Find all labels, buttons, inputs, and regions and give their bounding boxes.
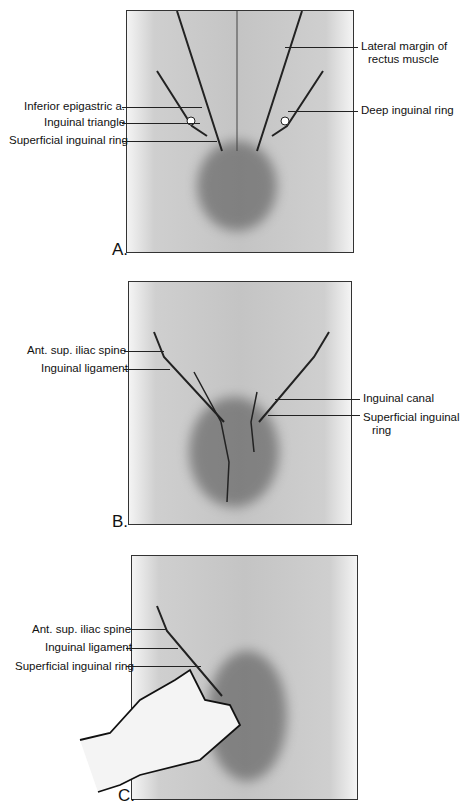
leader-inguinal-triangle: [122, 123, 200, 124]
panel-c-frame: [131, 555, 358, 800]
label-lateral-margin-rectus-line2: rectus muscle: [368, 53, 439, 66]
label-ant-sup-iliac-spine-c: Ant. sup. iliac spine: [32, 623, 131, 636]
panel-c-letter: C.: [118, 786, 135, 806]
leader-inguinal-canal: [275, 399, 360, 400]
label-inguinal-canal: Inguinal canal: [363, 392, 434, 405]
label-deep-inguinal-ring: Deep inguinal ring: [361, 104, 454, 117]
panel-b-letter: B.: [112, 512, 128, 532]
leader-inguinal-ligament-b: [124, 369, 170, 370]
panel-b-frame: [128, 281, 352, 525]
label-inferior-epigastric-artery: Inferior epigastric a.: [24, 100, 125, 113]
leader-ant-sup-iliac-spine-b: [124, 351, 164, 352]
leader-deep-inguinal-ring: [288, 111, 358, 112]
label-inguinal-ligament-c: Inguinal ligament: [45, 641, 132, 654]
label-ant-sup-iliac-spine-b: Ant. sup. iliac spine: [27, 344, 126, 357]
label-lateral-margin-rectus: Lateral margin of: [361, 40, 447, 53]
leader-lateral-margin-rectus: [285, 47, 358, 48]
leader-superficial-inguinal-ring-a: [122, 141, 217, 142]
label-inguinal-triangle: Inguinal triangle: [44, 116, 125, 129]
leader-inguinal-ligament-c: [126, 648, 178, 649]
panel-c-schematic-lines: [132, 556, 357, 799]
leader-inferior-epigastric-artery: [122, 107, 202, 108]
panel-b-schematic-lines: [129, 282, 351, 524]
leader-superficial-inguinal-ring-c: [126, 666, 201, 667]
label-inguinal-ligament-b: Inguinal ligament: [41, 362, 128, 375]
leader-superficial-inguinal-ring-b: [268, 415, 360, 416]
label-superficial-inguinal-ring-c: Superficial inguinal ring: [15, 660, 134, 673]
panel-a-letter: A.: [112, 240, 128, 260]
label-superficial-inguinal-ring-a: Superficial inguinal ring: [9, 134, 128, 147]
label-superficial-inguinal-ring-b: Superficial inguinal: [363, 411, 460, 424]
label-superficial-inguinal-ring-b-line2: ring: [372, 424, 391, 437]
leader-ant-sup-iliac-spine-c: [126, 629, 166, 630]
